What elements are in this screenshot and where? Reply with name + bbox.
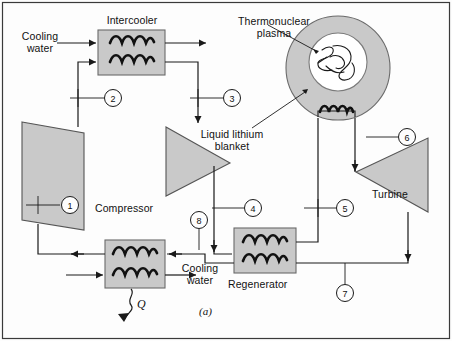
precooler-shell (105, 240, 165, 288)
state-label-6: 6 (404, 133, 409, 143)
turbine-label: Turbine (372, 188, 408, 200)
heat-rejection-label: Q (137, 297, 146, 312)
state-label-5: 5 (342, 204, 347, 214)
cooling-water-top-label: Cooling water (16, 30, 64, 54)
precooler-unit (105, 240, 165, 322)
blanket-leader-line (252, 92, 305, 128)
plasma-chamber-shape (309, 33, 367, 91)
state-label-3: 3 (229, 94, 234, 104)
regenerator-unit (234, 228, 296, 273)
intercooler-unit (98, 30, 165, 75)
pipe-4-regenerator-to-reactor (296, 118, 318, 242)
state-label-2: 2 (110, 94, 115, 104)
pipe-2-compressor1-to-intercooler (78, 62, 96, 127)
figure-canvas: 1 2 3 4 5 6 (0, 0, 452, 341)
heat-rejection-arrowhead (118, 313, 129, 322)
pipe-7-turbine-to-regenerator (296, 212, 408, 263)
thermonuclear-plasma-label: Thermonuclear plasma (231, 15, 317, 39)
turbine-shape (356, 138, 428, 212)
intercooler-label: Intercooler (95, 14, 169, 26)
pipe-8-compressor2-to-regenerator (214, 166, 232, 254)
liquid-lithium-blanket-label: Liquid lithium blanket (190, 128, 274, 152)
state-label-4: 4 (250, 204, 255, 214)
state-label-1: 1 (67, 201, 72, 211)
figure-caption: (a) (199, 305, 212, 317)
regenerator-shell (234, 228, 296, 273)
regenerator-label: Regenerator (228, 278, 287, 290)
diagram-svg: 1 2 3 4 5 6 (0, 0, 452, 341)
cooling-water-bottom-label: Cooling water (176, 262, 224, 286)
compressor-stage-1-shape (22, 122, 84, 230)
state-label-8: 8 (196, 216, 201, 226)
compressor-label: Compressor (95, 202, 153, 214)
pipe-3-intercooler-to-compressor2 (165, 62, 198, 123)
state-label-7: 7 (342, 289, 347, 299)
